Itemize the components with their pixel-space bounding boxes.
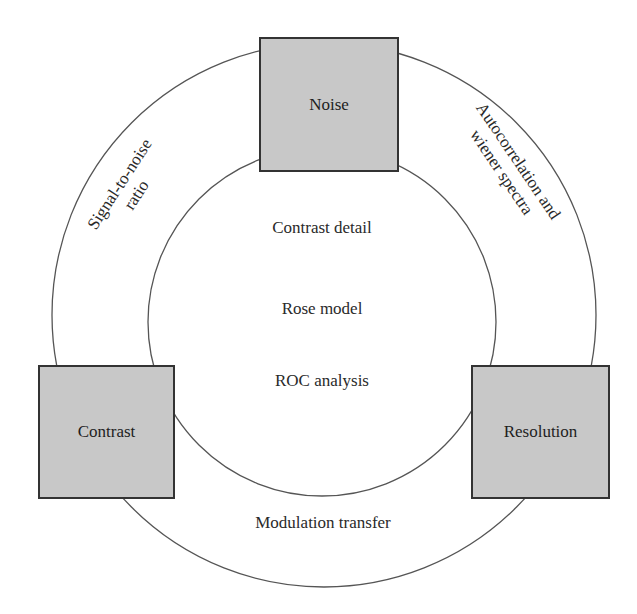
resolution-node: Resolution (471, 365, 610, 499)
rose-model-label: Rose model (282, 299, 363, 319)
contrast-node: Contrast (38, 365, 175, 499)
inner-ring (148, 148, 496, 496)
resolution-label: Resolution (504, 422, 578, 442)
noise-node: Noise (259, 37, 399, 172)
contrast-label: Contrast (78, 422, 136, 442)
noise-label: Noise (309, 95, 349, 115)
roc-analysis-label: ROC analysis (275, 371, 369, 391)
contrast-detail-label: Contrast detail (272, 218, 372, 238)
modulation-transfer-label: Modulation transfer (255, 513, 391, 533)
